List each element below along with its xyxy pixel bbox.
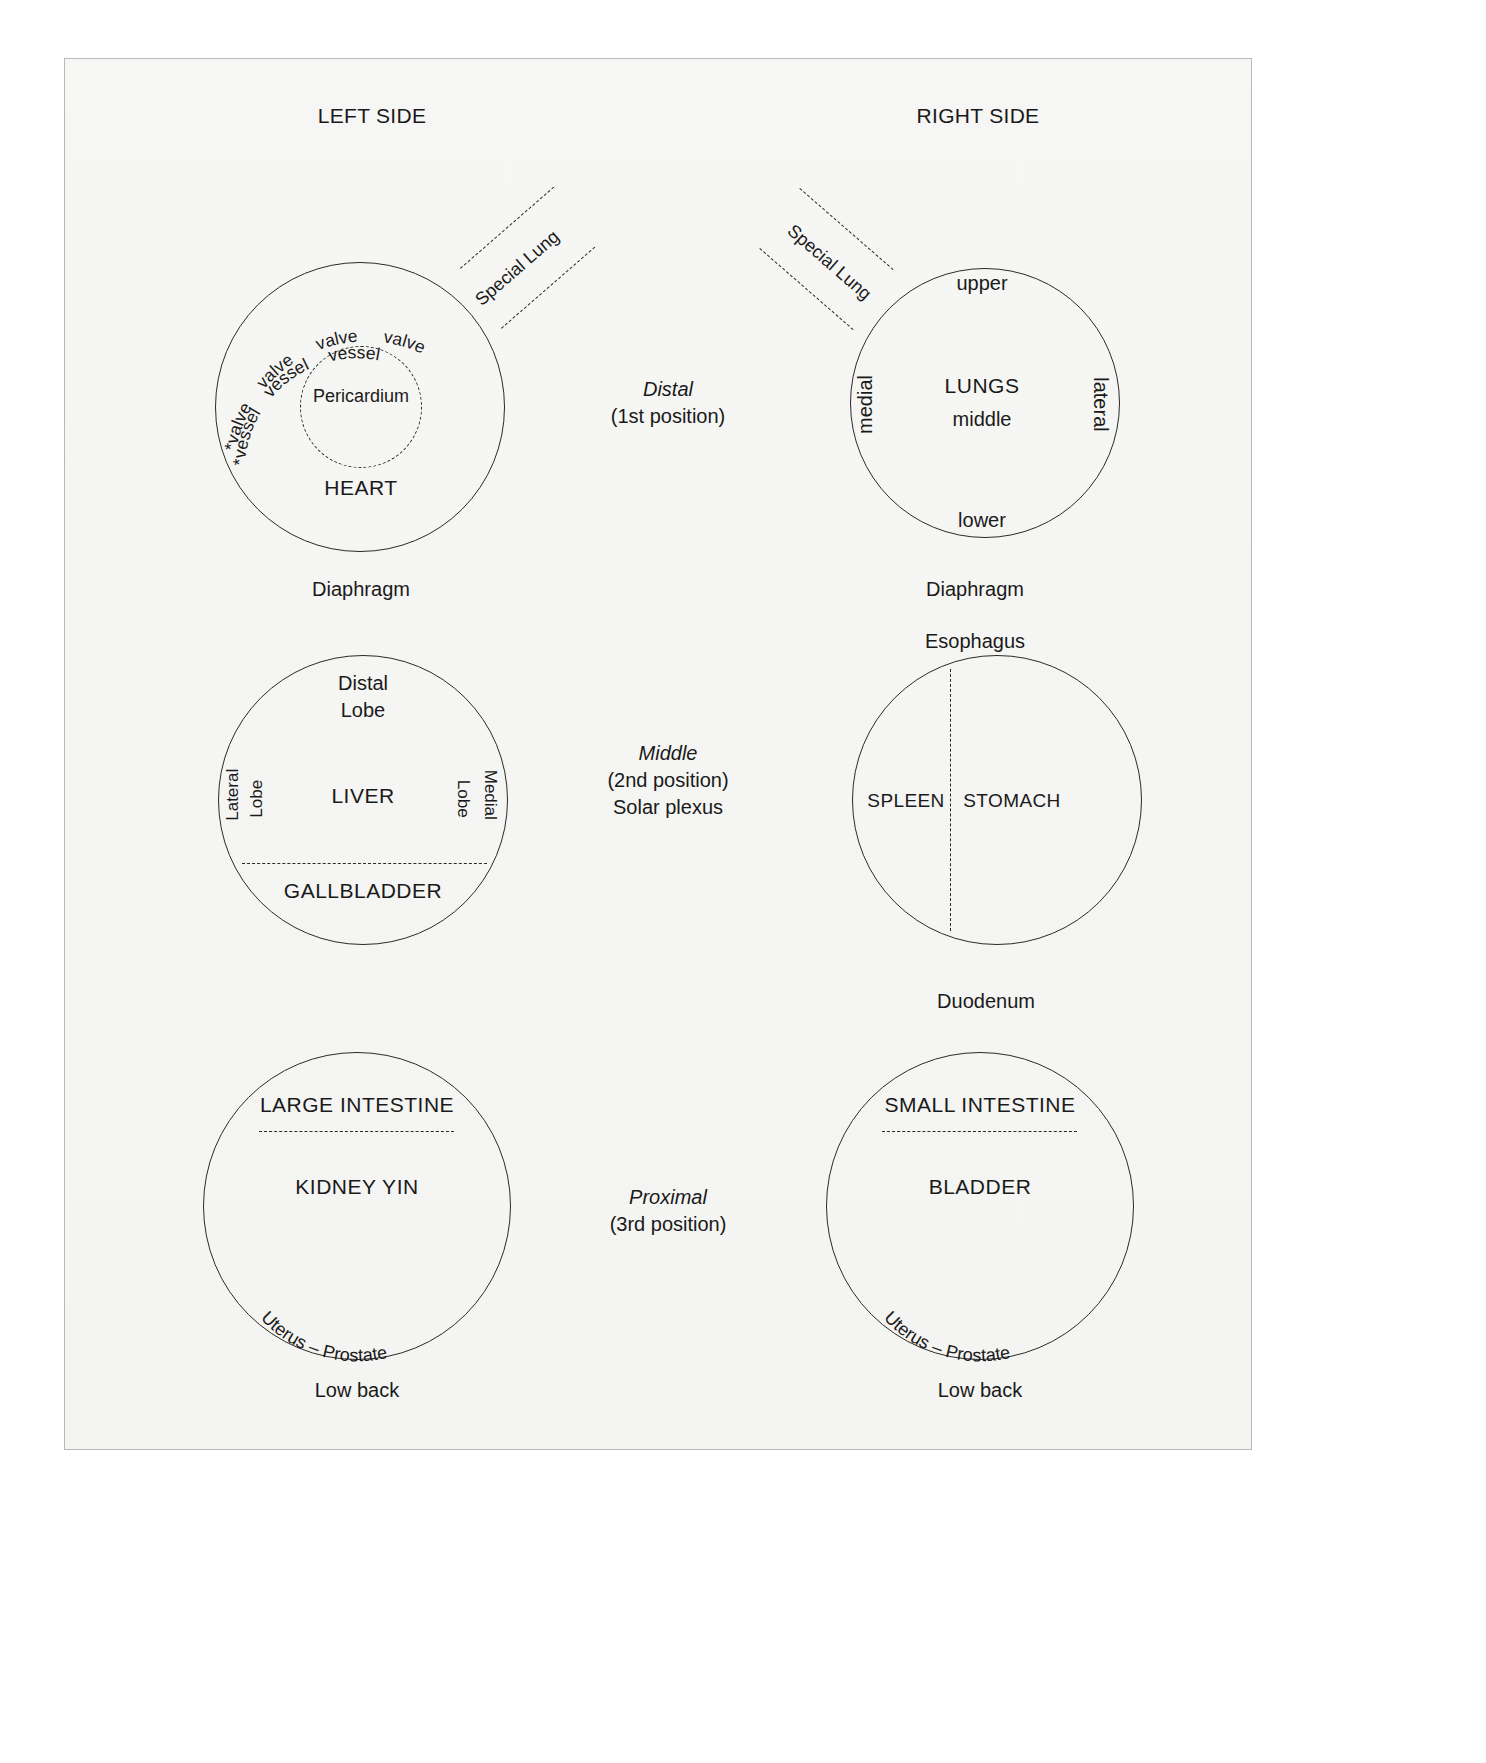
svg-text:Uterus – Prostate: Uterus – Prostate	[257, 1307, 388, 1365]
bladder-low-back-label: Low back	[938, 1379, 1023, 1402]
lungs-upper-label: upper	[956, 272, 1007, 295]
lungs-circle	[850, 268, 1120, 538]
esophagus-label: Esophagus	[925, 630, 1025, 653]
diagram-page: LEFT SIDE RIGHT SIDE Distal (1st positio…	[0, 0, 1486, 1763]
center-extra-2: Solar plexus	[538, 796, 798, 819]
center-emphasis-1: Distal	[538, 378, 798, 401]
bladder-uterus-prostate-label: Uterus – Prostate	[880, 1307, 1011, 1365]
header-left-side: LEFT SIDE	[318, 104, 427, 128]
header-right-side: RIGHT SIDE	[917, 104, 1040, 128]
kidney-uterus-prostate-label: Uterus – Prostate	[257, 1307, 388, 1365]
heart-valve-4: valve	[382, 327, 428, 358]
duodenum-label: Duodenum	[937, 990, 1035, 1013]
center-emphasis-2: Middle	[538, 742, 798, 765]
right-diaphragm-label: Diaphragm	[926, 578, 1024, 601]
liver-medial-lobe-label: Lobe	[453, 768, 473, 830]
spleen-stomach-divider	[950, 669, 951, 931]
liver-distal-label: Distal	[338, 672, 388, 695]
heart-organ-label: HEART	[324, 476, 397, 500]
spleen-label: SPLEEN	[867, 790, 944, 812]
pericardium-label: Pericardium	[313, 386, 409, 407]
liver-lateral-label: Lateral	[223, 760, 243, 830]
stomach-label: STOMACH	[963, 790, 1060, 812]
center-label-proximal: Proximal (3rd position)	[538, 1186, 798, 1232]
center-position-2: (2nd position)	[538, 769, 798, 792]
liver-distal-lobe-label: Lobe	[341, 699, 386, 722]
svg-text:Uterus – Prostate: Uterus – Prostate	[880, 1307, 1011, 1365]
heart-vessel-3: vessel	[326, 342, 381, 365]
liver-lateral-lobe-label: Lobe	[247, 768, 267, 830]
center-position-1: (1st position)	[538, 405, 798, 428]
kidney-low-back-label: Low back	[315, 1379, 400, 1402]
center-position-3: (3rd position)	[538, 1213, 798, 1236]
kidney-arc-label: Uterus – Prostate	[203, 1052, 511, 1360]
liver-organ-label: LIVER	[331, 784, 394, 808]
gallbladder-label: GALLBLADDER	[284, 879, 442, 903]
left-diaphragm-label: Diaphragm	[312, 578, 410, 601]
lungs-lower-label: lower	[958, 509, 1006, 532]
center-label-middle: Middle (2nd position) Solar plexus	[538, 742, 798, 811]
center-label-distal: Distal (1st position)	[538, 378, 798, 424]
lungs-middle-label: middle	[953, 408, 1012, 431]
bladder-arc-label: Uterus – Prostate	[826, 1052, 1134, 1360]
lungs-medial-label: medial	[854, 369, 877, 441]
gallbladder-divider	[242, 863, 487, 864]
lungs-lateral-label: lateral	[1089, 369, 1112, 441]
center-emphasis-3: Proximal	[538, 1186, 798, 1209]
lungs-organ-label: LUNGS	[945, 374, 1020, 398]
heart-arc-labels: *valve valve valve valve *vessel vessel …	[215, 262, 505, 552]
liver-medial-label: Medial	[480, 760, 500, 830]
